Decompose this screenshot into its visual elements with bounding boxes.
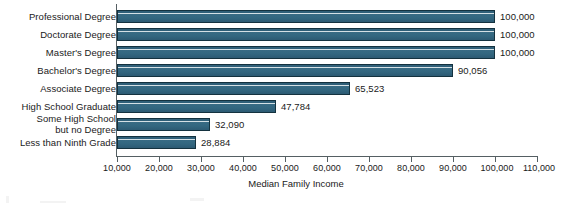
- x-axis-tick: [159, 157, 160, 162]
- bar-less-than-ninth-grade: [117, 136, 196, 149]
- category-label: Master's Degree: [46, 48, 116, 59]
- bar-value-label: 100,000: [500, 47, 535, 58]
- bar-high-school-graduate: [117, 100, 276, 113]
- bar-value-label: 90,056: [458, 65, 487, 76]
- bar-value-label: 100,000: [500, 29, 535, 40]
- x-axis-tick: [285, 157, 286, 162]
- bar-professional-degree: [117, 10, 495, 23]
- x-axis-tick-label: 40,000: [229, 163, 257, 173]
- category-label: Associate Degree: [40, 84, 116, 95]
- category-label: High School Graduate: [22, 102, 116, 113]
- x-axis-tick: [243, 157, 244, 162]
- x-axis-tick-label: 100,000: [481, 163, 514, 173]
- x-axis-tick-label: 30,000: [187, 163, 215, 173]
- bar-value-label: 100,000: [500, 11, 535, 22]
- x-axis-tick: [453, 157, 454, 162]
- scan-artifact: [6, 196, 9, 203]
- x-axis-tick: [369, 157, 370, 162]
- scan-artifact: [40, 201, 66, 203]
- x-axis-title: Median Family Income: [0, 178, 570, 189]
- x-axis-tick: [201, 157, 202, 162]
- category-label: Less than Ninth Grade: [20, 138, 116, 149]
- bar-masters-degree: [117, 46, 495, 59]
- x-axis-tick-label: 80,000: [397, 163, 425, 173]
- bar-doctorate-degree: [117, 28, 495, 41]
- category-label: Some High School but no Degree: [37, 114, 116, 135]
- x-axis-title-text: Median Family Income: [248, 178, 344, 189]
- bar-value-label: 47,784: [281, 101, 310, 112]
- median-family-income-bar-chart: Professional Degree Doctorate Degree Mas…: [0, 0, 570, 208]
- bar-some-high-school: [117, 118, 210, 131]
- x-axis-tick-label: 50,000: [271, 163, 299, 173]
- category-label: Professional Degree: [29, 12, 116, 23]
- bar-value-label: 28,884: [201, 137, 230, 148]
- x-axis-tick-label: 60,000: [313, 163, 341, 173]
- category-label: Bachelor's Degree: [37, 66, 116, 77]
- bar-value-label: 32,090: [215, 119, 244, 130]
- x-axis-tick-label: 90,000: [439, 163, 467, 173]
- x-axis-tick-label: 70,000: [355, 163, 383, 173]
- x-axis-tick: [537, 157, 538, 162]
- x-axis-tick: [411, 157, 412, 162]
- category-label: Doctorate Degree: [40, 30, 116, 41]
- bar-value-label: 65,523: [355, 83, 384, 94]
- x-axis-tick: [495, 157, 496, 162]
- x-axis-tick-label: 20,000: [145, 163, 173, 173]
- x-axis-tick: [327, 157, 328, 162]
- bar-associate-degree: [117, 82, 350, 95]
- y-axis-line: [116, 4, 117, 156]
- x-axis-tick-label: 10,000: [103, 163, 131, 173]
- x-axis-tick-label: 110,000: [523, 163, 555, 173]
- x-axis-tick: [117, 157, 118, 162]
- scan-artifact: [190, 198, 204, 201]
- bar-bachelors-degree: [117, 64, 453, 77]
